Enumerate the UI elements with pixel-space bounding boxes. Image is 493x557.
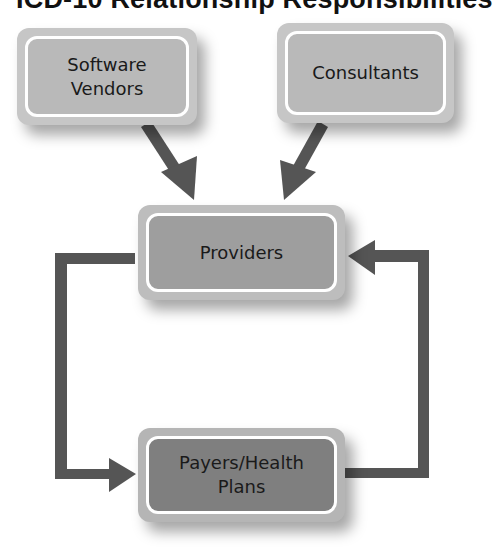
node-label: Payers/Health Plans — [179, 451, 304, 499]
arrow-payers-to-providers — [345, 240, 429, 478]
node-label: Providers — [200, 241, 284, 265]
node-label: Consultants — [312, 61, 419, 85]
node-label: Software Vendors — [67, 53, 146, 101]
node-payers-health-plans: Payers/Health Plans — [138, 428, 345, 522]
node-software-vendors: Software Vendors — [17, 28, 197, 125]
arrow-providers-to-payers — [55, 253, 136, 492]
arrow-vendors-to-providers — [141, 121, 197, 200]
node-providers: Providers — [138, 205, 345, 300]
arrow-consultants-to-providers — [280, 121, 328, 200]
node-consultants: Consultants — [277, 23, 454, 123]
